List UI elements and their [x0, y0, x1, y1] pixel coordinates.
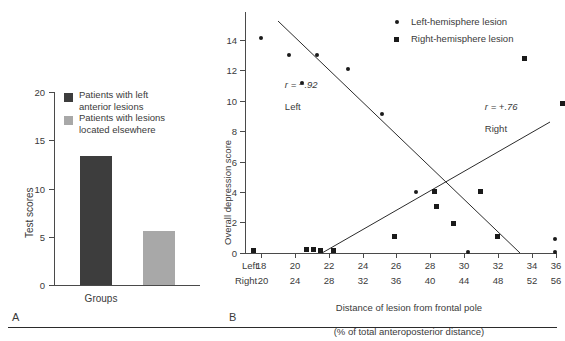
- data-point-right: [560, 101, 565, 106]
- panel-a-letter: A: [12, 311, 19, 323]
- legend-label-left-anterior: Patients with left anterior lesions: [79, 89, 148, 112]
- annotation-left-r-value: r = −.92: [285, 79, 318, 90]
- data-point-right: [495, 234, 500, 239]
- panel-a-y-tick-label-15: 15: [24, 135, 45, 146]
- annotation-left-side: Left: [285, 101, 301, 112]
- panel-a-y-tick-15: [49, 140, 54, 141]
- legend-label-lesions-elsewhere: Patients with lesions located elsewhere: [79, 112, 165, 135]
- panel-a-y-tick-20: [49, 92, 54, 93]
- data-point-right: [251, 248, 256, 253]
- panel-a-y-tick-5: [49, 237, 54, 238]
- legend-swatch-left-anterior: [64, 93, 73, 102]
- annotation-right-r-value: r = +.76: [485, 101, 518, 112]
- panel-a-y-tick-label-0: 0: [24, 280, 45, 291]
- panel-a-x-axis-line: [54, 285, 200, 286]
- data-point-right: [318, 248, 323, 253]
- data-point-right: [392, 234, 397, 239]
- annotation-left-correlation: r = −.92 Left: [269, 68, 318, 123]
- data-point-right: [304, 247, 309, 252]
- panel-a-y-tick-label-5: 5: [24, 232, 45, 243]
- panel-a-x-axis-label: Groups: [85, 293, 118, 304]
- data-point-right: [434, 204, 439, 209]
- legend-label-left-hemisphere: Left-hemisphere lesion: [411, 16, 507, 27]
- legend-marker-right-hemisphere: [394, 37, 399, 42]
- annotation-right-correlation: r = +.76 Right: [469, 90, 518, 145]
- panel-a-y-axis-label: Test scores: [24, 187, 35, 238]
- panel-b-scatter-chart: Overall depression score 0 2 4 6 8 10 12…: [215, 0, 565, 336]
- legend-label-right-hemisphere: Right-hemisphere lesion: [411, 33, 513, 44]
- data-point-right: [432, 189, 437, 194]
- panel-a-y-tick-10: [49, 189, 54, 190]
- panel-a-y-tick-0: [49, 285, 54, 286]
- data-point-right: [311, 247, 316, 252]
- annotation-right-side: Right: [485, 123, 507, 134]
- panel-a-y-tick-label-10: 10: [24, 184, 45, 195]
- panel-b-x-axis-caption-line1: Distance of lesion from frontal pole: [336, 302, 482, 313]
- bar-left-anterior-lesions: [80, 156, 112, 285]
- panel-b-x-axis-caption: Distance of lesion from frontal pole (% …: [318, 290, 484, 341]
- panel-a-y-tick-label-20: 20: [24, 87, 45, 98]
- panel-b-letter: B: [229, 311, 236, 323]
- data-point-right: [331, 248, 336, 253]
- panel-a-y-axis-line: [54, 92, 55, 286]
- data-point-right: [522, 56, 527, 61]
- figure-bottom-rule: [8, 327, 557, 328]
- data-point-right: [451, 221, 456, 226]
- data-point-right: [478, 189, 483, 194]
- panel-b-regression-lines: [215, 0, 565, 300]
- bar-lesions-elsewhere: [143, 231, 175, 285]
- legend-swatch-lesions-elsewhere: [64, 116, 73, 125]
- panel-a-bar-chart: Test scores 0 5 10 15 20 Patients with l…: [0, 0, 215, 336]
